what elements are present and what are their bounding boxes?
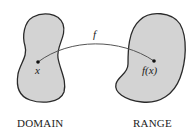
arrow-label-f: f bbox=[93, 28, 96, 40]
point-label-fx: f(x) bbox=[142, 64, 157, 76]
function-diagram: f x f(x) DOMAIN RANGE bbox=[0, 0, 191, 138]
point-label-x: x bbox=[35, 64, 40, 76]
point-fx bbox=[152, 59, 156, 63]
range-label: RANGE bbox=[133, 117, 172, 129]
domain-label: DOMAIN bbox=[17, 117, 63, 129]
range-set bbox=[116, 14, 186, 103]
domain-set bbox=[17, 14, 64, 102]
